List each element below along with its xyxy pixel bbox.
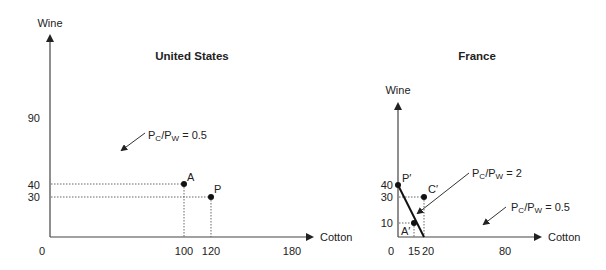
us-panel: United States Wine Cotton 0 90 40 30 100… [28,17,353,257]
france-point-a-label: A′ [401,225,410,237]
france-y-tick-40: 40 [381,179,393,191]
france-x-tick-20: 20 [422,245,434,257]
france-x-axis-label: Cotton [548,231,580,243]
france-point-a [411,220,417,226]
france-x-tick-15: 15 [408,245,420,257]
france-point-p-label: P′ [402,172,411,184]
france-price-ratio-2-label: PC/PW = 2 [472,167,522,181]
france-title: France [458,50,496,62]
us-point-p-label: P [214,183,221,195]
france-point-c-label: C′ [428,183,438,195]
france-x-tick-80: 80 [499,245,511,257]
us-y-tick-40: 40 [28,179,40,191]
us-x-axis-label: Cotton [320,231,352,243]
us-x-tick-100: 100 [175,245,193,257]
us-x-tick-180: 180 [283,245,301,257]
france-panel: France Wine Cotton 0 40 30 10 15 20 80 P… [381,50,581,257]
us-price-ratio-label: PC/PW = 0.5 [148,129,207,143]
france-y-tick-30: 30 [381,191,393,203]
us-y-tick-90: 90 [28,112,40,124]
us-point-a-label: A [187,171,195,183]
us-y-axis-label: Wine [37,17,62,29]
us-y-tick-30: 30 [28,191,40,203]
us-guide-lines [51,184,211,237]
france-price-arrow-05 [484,207,506,224]
trade-diagram: United States Wine Cotton 0 90 40 30 100… [0,0,606,270]
france-origin-label: 0 [388,245,394,257]
france-point-p [395,182,401,188]
france-y-axis-label: Wine [385,84,410,96]
france-price-ratio-05-label: PC/PW = 0.5 [511,201,570,215]
us-x-tick-120: 120 [202,245,220,257]
us-origin-label: 0 [39,245,45,257]
france-point-c [421,194,427,200]
us-price-arrow [122,133,145,150]
france-price-arrow-2 [418,173,469,213]
france-y-tick-10: 10 [381,217,393,229]
us-title: United States [155,50,229,62]
